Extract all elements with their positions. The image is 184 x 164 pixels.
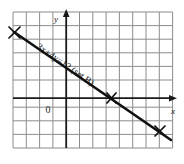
y-axis-label: y xyxy=(53,14,58,24)
graph-figure: y x 0 3x+4y=12 (set B) xyxy=(0,0,184,164)
x-axis-label: x xyxy=(170,106,175,116)
coordinate-plane: y x 0 3x+4y=12 (set B) xyxy=(0,0,184,164)
origin-label: 0 xyxy=(46,104,51,115)
